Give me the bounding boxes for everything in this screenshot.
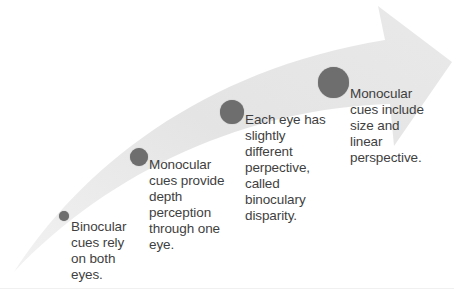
step-4-label: Monocular cues include size and linear p… [350,86,424,166]
step-2-line: depth [149,189,224,205]
step-4-line: cues include [350,102,424,118]
divider [0,288,454,289]
step-1-label: Binocular cues rely on both eyes. [71,219,126,283]
step-1-line: on both [71,251,126,267]
step-4-line: perspective. [350,150,424,166]
step-3-label: Each eye has slightly different perpecti… [245,112,326,224]
step-3-line: different [245,144,326,160]
step-2-line: Monocular [149,157,224,173]
step-2-marker [130,148,148,166]
process-diagram: Binocular cues rely on both eyes. Monocu… [0,0,454,296]
step-3-line: called [245,176,326,192]
step-4-line: size and [350,118,424,134]
step-2-line: cues provide [149,173,224,189]
step-1-line: cues rely [71,235,126,251]
step-2-line: through one [149,221,224,237]
step-3-line: slightly [245,128,326,144]
step-1-marker [59,211,69,221]
step-4-marker [318,67,349,98]
step-2-line: eye. [149,237,224,253]
step-1-line: eyes. [71,267,126,283]
step-3-line: disparity. [245,208,326,224]
step-4-line: linear [350,134,424,150]
step-3-line: binoculary [245,192,326,208]
step-2-label: Monocular cues provide depth perception … [149,157,224,253]
step-3-marker [220,100,244,124]
step-4-line: Monocular [350,86,424,102]
step-2-line: perception [149,205,224,221]
step-1-line: Binocular [71,219,126,235]
step-3-line: Each eye has [245,112,326,128]
step-3-line: perpective, [245,160,326,176]
